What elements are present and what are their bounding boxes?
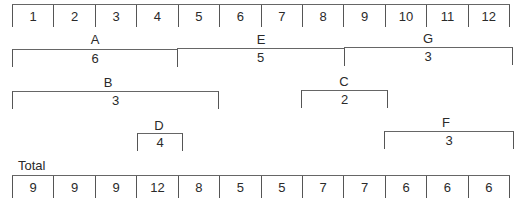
activity-value-a: 6 — [13, 51, 177, 66]
month-cell: 7 — [261, 5, 302, 27]
activity-bracket-e: 5 — [177, 48, 345, 66]
total-cell: 12 — [136, 176, 177, 198]
total-cell: 7 — [302, 176, 343, 198]
activity-bracket-g: 3 — [344, 47, 513, 65]
total-cell: 7 — [343, 176, 384, 198]
activity-bracket-c: 2 — [301, 90, 388, 108]
activity-value-d: 4 — [138, 135, 182, 150]
activity-bracket-b: 3 — [12, 91, 219, 109]
activity-bracket-d: 4 — [137, 133, 183, 151]
month-cell: 9 — [343, 5, 384, 27]
activity-value-f: 3 — [385, 133, 513, 148]
activity-label-e: E — [257, 32, 266, 47]
activity-label-f: F — [442, 115, 450, 130]
total-row: 9 9 9 12 8 5 5 7 7 6 6 6 — [12, 175, 510, 198]
total-cell: 9 — [53, 176, 94, 198]
activity-label-a: A — [91, 32, 100, 47]
month-cell: 3 — [95, 5, 136, 27]
activity-value-b: 3 — [13, 93, 218, 108]
total-cell: 5 — [261, 176, 302, 198]
month-cell: 6 — [219, 5, 260, 27]
activity-bracket-f: 3 — [384, 131, 514, 149]
month-cell: 1 — [12, 5, 53, 27]
month-cell: 8 — [302, 5, 343, 27]
total-cell: 9 — [95, 176, 136, 198]
total-cell: 6 — [385, 176, 426, 198]
month-cell: 4 — [136, 5, 177, 27]
total-label: Total — [18, 158, 45, 173]
total-cell: 6 — [468, 176, 510, 198]
total-cell: 8 — [178, 176, 219, 198]
activity-value-c: 2 — [302, 92, 387, 107]
total-cell: 6 — [426, 176, 467, 198]
month-cell: 12 — [468, 5, 510, 27]
total-cell: 9 — [12, 176, 53, 198]
activity-label-d: D — [154, 118, 163, 133]
month-cell: 10 — [385, 5, 426, 27]
month-cell: 11 — [426, 5, 467, 27]
activity-value-g: 3 — [344, 49, 512, 64]
activity-bracket-a: 6 — [12, 49, 178, 67]
month-cell: 5 — [178, 5, 219, 27]
month-cell: 2 — [53, 5, 94, 27]
activity-label-g: G — [423, 31, 433, 46]
activity-label-c: C — [339, 74, 348, 89]
total-cell: 5 — [219, 176, 260, 198]
month-header-row: 1 2 3 4 5 6 7 8 9 10 11 12 — [12, 4, 510, 27]
activity-label-b: B — [104, 75, 113, 90]
activity-value-e: 5 — [177, 50, 344, 65]
